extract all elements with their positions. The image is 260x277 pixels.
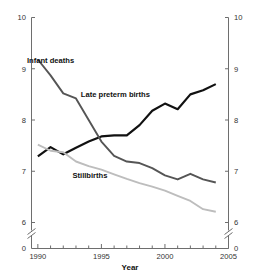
svg-text:2005: 2005 bbox=[220, 252, 237, 261]
series-group bbox=[38, 60, 216, 212]
svg-text:1995: 1995 bbox=[93, 252, 110, 261]
svg-text:1990: 1990 bbox=[29, 252, 46, 261]
svg-text:10: 10 bbox=[234, 13, 242, 22]
svg-text:9: 9 bbox=[234, 65, 238, 74]
svg-text:6: 6 bbox=[22, 218, 26, 227]
svg-text:8: 8 bbox=[22, 116, 26, 125]
svg-text:Year: Year bbox=[122, 263, 139, 272]
svg-text:8: 8 bbox=[234, 116, 238, 125]
plot-area: 101099887766001990199520002005Year Late … bbox=[0, 0, 260, 277]
series-label-infant-deaths: Infant deaths bbox=[27, 56, 74, 65]
svg-text:6: 6 bbox=[234, 218, 238, 227]
series-label-stillbirths: Stillbirths bbox=[72, 171, 107, 180]
svg-text:10: 10 bbox=[18, 13, 26, 22]
svg-text:2000: 2000 bbox=[156, 252, 173, 261]
axes-group: 101099887766001990199520002005Year bbox=[18, 13, 243, 271]
series-infant-deaths bbox=[38, 60, 216, 183]
svg-text:9: 9 bbox=[22, 65, 26, 74]
svg-text:7: 7 bbox=[22, 167, 26, 176]
chart-container: Percent of late preterm births (34-36 we… bbox=[0, 0, 260, 277]
series-label-late-preterm-births: Late preterm births bbox=[81, 90, 150, 99]
svg-text:0: 0 bbox=[22, 244, 26, 253]
svg-text:7: 7 bbox=[234, 167, 238, 176]
